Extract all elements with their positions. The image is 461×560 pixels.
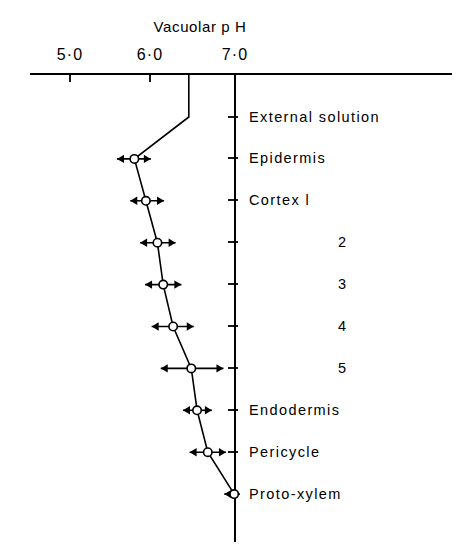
axes-group [30,74,452,542]
error-bar-arrow-8-high [219,448,226,456]
data-point-9 [230,490,238,498]
error-bar-arrow-8-low [190,448,197,456]
error-bar-arrow-5-low [152,322,159,330]
error-bar-arrow-7-low [183,406,190,414]
data-point-1 [130,155,138,163]
error-bar-group [117,155,240,499]
error-bar-arrow-2-low [130,197,137,205]
error-bar-arrow-2-high [157,197,164,205]
error-bar-arrow-7-high [205,406,212,414]
error-bar-arrow-6-low [161,364,168,372]
row-tick-group [228,117,238,494]
data-point-7 [193,406,201,414]
data-point-4 [159,280,167,288]
error-bar-arrow-1-low [117,155,124,163]
error-bar-arrow-1-high [144,155,151,163]
data-point-8 [204,448,212,456]
data-point-3 [153,239,161,247]
error-bar-arrow-5-high [187,322,194,330]
data-point-2 [142,197,150,205]
vacuolar-ph-figure: Vacuolar p H 5·0 6·0 7·0 External soluti… [0,0,461,560]
error-bar-arrow-3-high [169,239,176,247]
error-bar-arrow-6-high [216,364,223,372]
error-bar-arrow-4-high [174,280,181,288]
data-point-5 [169,322,177,330]
plot-area [0,0,461,560]
error-bar-arrow-4-low [145,280,152,288]
error-bar-arrow-3-low [140,239,147,247]
data-point-6 [187,364,195,372]
